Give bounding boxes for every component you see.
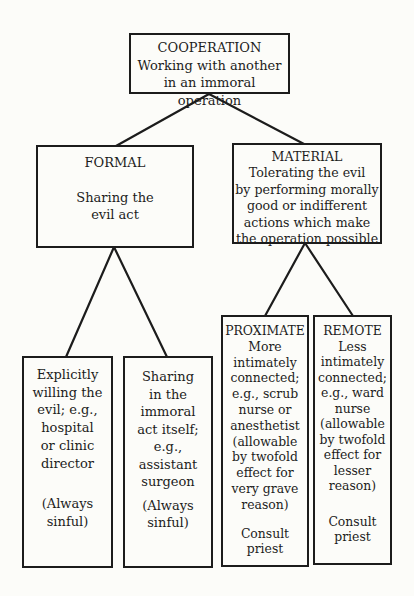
edge-material-proximate [265,243,305,316]
node-remote-body: Less intimately connected; e.g., ward nu… [315,339,390,494]
node-proximate-body: More intimately connected; e.g., scrub n… [223,339,307,513]
node-remote-heading: REMOTE [315,323,390,339]
node-proximate-heading: PROXIMATE [223,323,307,339]
node-remote-footer: Consult priest [315,514,390,545]
node-proximate-footer: Consult priest [223,526,307,558]
node-proximate: PROXIMATE More intimately connected; e.g… [221,315,309,567]
node-material-heading: MATERIAL [234,149,380,165]
node-cooperation-body: Working with another in an immoral opera… [131,57,288,110]
node-cooperation-heading: COOPERATION [131,39,288,57]
node-sharing-in-act: Sharing in the immoral act itself; e.g.,… [123,356,213,568]
node-remote: REMOTE Less intimately connected; e.g., … [313,315,392,565]
node-sharing-in-act-footer: (Always sinful) [125,497,211,532]
node-sharing-in-act-body: Sharing in the immoral act itself; e.g.,… [125,368,211,491]
node-formal-heading: FORMAL [38,154,192,172]
node-explicitly-willing-footer: (Always sinful) [24,495,111,530]
edge-formal-sharing [114,247,167,357]
node-explicitly-willing: Explicitly willing the evil; e.g., hospi… [22,356,113,568]
edge-material-remote [305,243,353,316]
node-explicitly-willing-body: Explicitly willing the evil; e.g., hospi… [24,366,111,472]
edge-formal-explicit [66,247,114,357]
cooperation-diagram: COOPERATION Working with another in an i… [0,0,414,596]
node-material: MATERIAL Tolerating the evil by performi… [232,143,382,244]
node-cooperation: COOPERATION Working with another in an i… [129,33,290,94]
node-formal: FORMAL Sharing the evil act [36,145,194,248]
node-material-body: Tolerating the evil by performing morall… [234,165,380,247]
node-formal-body: Sharing the evil act [38,189,192,224]
